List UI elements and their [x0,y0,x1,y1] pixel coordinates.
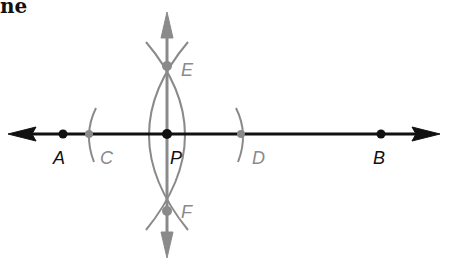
label-e: E [181,60,194,80]
point-d [237,130,245,138]
arrow-down-icon [161,232,173,258]
label-a: A [52,148,65,168]
line-ab [8,127,440,141]
point-e [162,61,172,71]
point-a [59,130,68,139]
arrow-up-icon [161,12,173,38]
label-c: C [100,148,114,168]
arrow-right-icon [412,127,440,141]
point-f [162,206,172,216]
arrow-left-icon [8,127,36,141]
label-f: F [181,202,193,222]
perpendicular-construction-diagram: A C P D B E F [0,0,451,260]
point-c [85,130,93,138]
point-b [377,130,386,139]
label-b: B [373,148,385,168]
point-p [162,129,172,139]
label-d: D [252,148,265,168]
label-p: P [170,148,182,168]
